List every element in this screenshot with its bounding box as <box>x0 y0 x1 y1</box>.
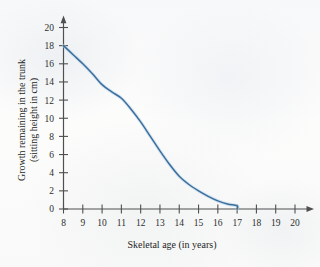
y-axis-tick-label: 6 <box>49 150 54 160</box>
x-axis-title: Skeletal age (in years) <box>127 239 216 251</box>
x-axis-tick-label: 17 <box>232 218 242 228</box>
x-axis-tick-label: 13 <box>155 218 165 228</box>
line-chart-plot: 02468101214161820 8910111213141516171819… <box>0 0 320 267</box>
y-axis-title-line-1: Growth remaining in the trunk <box>16 59 27 181</box>
y-axis-title: Growth remaining in the trunk (sitting h… <box>16 59 40 181</box>
y-axis-arrowhead <box>61 16 67 24</box>
y-axis-tick-label: 14 <box>45 77 55 87</box>
x-axis-tick-label: 10 <box>97 218 107 228</box>
x-axis-tick-label: 11 <box>117 218 126 228</box>
x-axis-arrowhead <box>307 206 315 212</box>
y-axis-tick-label: 2 <box>49 186 54 196</box>
x-axis-tick-label: 12 <box>136 218 146 228</box>
y-axis-tick-label: 10 <box>45 114 55 124</box>
y-axis-tick-label: 12 <box>45 96 55 106</box>
y-axis-tick-label: 0 <box>49 204 54 214</box>
x-axis-tick-label-group: 891011121314151617181920 <box>61 218 300 228</box>
x-axis-tick-label: 16 <box>213 218 223 228</box>
x-axis-tick-label: 14 <box>175 218 185 228</box>
y-axis-title-line-2: (sitting height in cm) <box>28 78 40 162</box>
x-axis <box>64 206 315 212</box>
data-series-group <box>64 46 238 209</box>
x-axis-tick-label: 19 <box>271 218 281 228</box>
y-axis-tick-label: 20 <box>45 23 55 33</box>
y-axis-tick-label: 18 <box>45 41 55 51</box>
chart-figure: 02468101214161820 8910111213141516171819… <box>0 0 320 267</box>
x-axis-tick-label: 20 <box>290 218 300 228</box>
y-axis-tick-label: 16 <box>45 59 55 69</box>
y-axis-tick-label: 8 <box>49 132 54 142</box>
y-axis-tick-label: 4 <box>49 168 54 178</box>
data-curve <box>64 46 238 209</box>
x-axis-tick-label: 15 <box>194 218 204 228</box>
y-axis-tick-label-group: 02468101214161820 <box>45 23 55 215</box>
x-axis-tick-label: 18 <box>252 218 262 228</box>
x-axis-tick-label: 9 <box>80 218 85 228</box>
x-axis-tick-label: 8 <box>61 218 66 228</box>
